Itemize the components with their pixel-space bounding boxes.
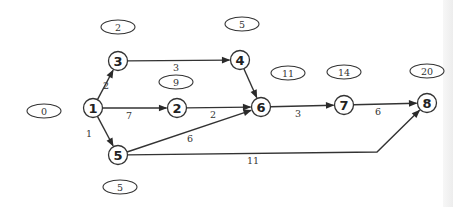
time-oval-node-8: 20 [410,64,444,78]
node-8: 8 [418,94,437,113]
node-6: 6 [252,98,271,117]
edge-duration-label: 3 [173,62,179,73]
edge-3-4: 3 [127,60,229,73]
edge-7-8: 6 [353,103,416,117]
edge-duration-label: 11 [247,155,259,166]
node-label: 3 [113,54,122,69]
edge-duration-label: 6 [187,133,193,144]
earliest-time-label: 5 [239,19,245,30]
node-1: 1 [84,99,103,118]
diagram-canvas: 2713263611 02591114205 12345678 [0,0,453,207]
node-label: 8 [422,96,431,111]
edge-duration-label: 7 [126,110,132,121]
edge-line [353,103,416,105]
time-oval-node-3: 2 [101,20,135,34]
time-oval-node-6: 11 [271,66,305,80]
time-oval-node-7: 14 [327,65,361,79]
node-2: 2 [168,99,187,118]
edge-duration-label: 6 [375,106,381,117]
node-label: 4 [235,53,244,68]
edge-1-2: 7 [103,108,167,121]
node-label: 7 [339,98,348,113]
edge-line [127,110,419,155]
time-oval-node-1: 0 [27,104,61,118]
time-oval-node-5: 5 [103,180,137,194]
node-label: 5 [113,148,122,163]
earliest-time-label: 14 [338,67,350,78]
node-label: 1 [88,101,97,116]
node-5: 5 [109,146,128,165]
earliest-time-label: 11 [282,68,294,79]
edge-duration-label: 3 [295,108,301,119]
edges-layer: 2713263611 [86,60,420,166]
edge-5-6: 6 [127,110,251,152]
earliest-time-label: 20 [421,66,433,77]
time-oval-node-2: 9 [159,75,193,89]
edge-duration-label: 1 [86,128,92,139]
earliest-time-label: 2 [115,22,121,33]
edge-6-7: 3 [270,105,333,119]
earliest-time-label: 9 [173,77,179,88]
edge-4-6 [244,69,257,98]
network-diagram: 2713263611 02591114205 12345678 [0,0,453,207]
edge-line [97,116,113,145]
node-label: 6 [256,100,265,115]
edge-line [127,110,251,152]
edge-duration-label: 2 [210,109,216,120]
edge-line [244,69,257,98]
node-label: 2 [172,101,181,116]
time-oval-node-4: 5 [225,17,259,31]
node-4: 4 [231,51,250,70]
earliest-time-label: 0 [41,106,47,117]
node-3: 3 [109,52,128,71]
edge-5-8: 11 [127,110,419,166]
edge-line [127,60,229,61]
edge-1-3: 2 [97,70,113,99]
edge-line [270,105,333,107]
edge-1-5: 1 [86,116,113,145]
node-7: 7 [335,96,354,115]
edge-duration-label: 2 [103,80,109,91]
edge-line [186,107,250,108]
earliest-time-label: 5 [117,182,123,193]
